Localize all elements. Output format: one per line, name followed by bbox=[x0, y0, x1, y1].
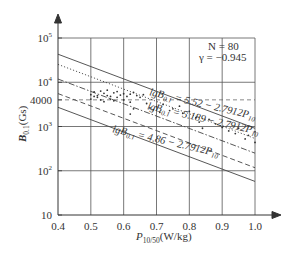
x-tick-label: 0.9 bbox=[215, 220, 229, 232]
data-point bbox=[110, 96, 112, 98]
data-point bbox=[129, 113, 131, 115]
x-axis-label: P10/50(W/kg) bbox=[135, 230, 192, 245]
data-point bbox=[119, 94, 121, 96]
data-point bbox=[110, 98, 112, 100]
x-tick-label: 1.0 bbox=[248, 220, 262, 232]
y-axis-label: B0.1(Gs) bbox=[16, 105, 31, 143]
x-axis-arrow-icon bbox=[272, 212, 281, 219]
data-point bbox=[106, 89, 108, 91]
data-point bbox=[129, 93, 131, 95]
y-tick-labels: 101021034000104105 bbox=[30, 31, 62, 221]
data-point bbox=[97, 96, 99, 98]
data-point bbox=[139, 96, 141, 98]
data-point bbox=[142, 94, 144, 96]
y-axis-arrow-icon bbox=[55, 14, 62, 23]
y-tick-label: 10 bbox=[41, 209, 53, 221]
x-tick-label: 0.6 bbox=[117, 220, 131, 232]
data-point bbox=[116, 96, 118, 98]
data-point bbox=[90, 98, 92, 100]
data-point bbox=[100, 99, 102, 101]
data-point bbox=[126, 96, 128, 98]
data-point bbox=[133, 92, 135, 94]
chart: 0.40.50.60.70.80.91.0 101021034000104105… bbox=[0, 0, 306, 262]
data-point bbox=[106, 95, 108, 97]
data-point bbox=[129, 101, 131, 103]
annotation-gamma: γ = −0.945 bbox=[198, 51, 247, 63]
y-tick-label: 4000 bbox=[30, 94, 53, 106]
x-tick-labels: 0.40.50.60.70.80.91.0 bbox=[51, 220, 262, 232]
data-point bbox=[113, 100, 115, 102]
data-point bbox=[123, 93, 125, 95]
equation-lower: lgB0.1 = 4.86 − 2.7912P10 bbox=[111, 123, 220, 161]
data-point bbox=[100, 90, 102, 92]
data-point bbox=[202, 127, 204, 129]
data-point bbox=[234, 133, 236, 135]
x-tick-label: 0.5 bbox=[84, 220, 98, 232]
data-point bbox=[103, 92, 105, 94]
data-point bbox=[93, 96, 95, 98]
y-tick-label: 102 bbox=[38, 164, 53, 177]
y-tick-label: 103 bbox=[38, 120, 53, 133]
y-tick-label: 105 bbox=[38, 31, 53, 44]
data-point bbox=[116, 91, 118, 93]
y-tick-label: 104 bbox=[38, 75, 53, 88]
data-point bbox=[123, 99, 125, 101]
data-point bbox=[133, 108, 135, 110]
data-point bbox=[136, 95, 138, 97]
data-point bbox=[93, 91, 95, 93]
data-point bbox=[113, 92, 115, 94]
data-point bbox=[254, 142, 256, 144]
x-tick-label: 0.4 bbox=[51, 220, 65, 232]
data-point bbox=[97, 95, 99, 97]
data-point bbox=[103, 101, 105, 103]
data-point bbox=[244, 138, 246, 140]
data-point bbox=[90, 94, 92, 96]
data-point bbox=[248, 134, 250, 136]
data-point bbox=[228, 130, 230, 132]
